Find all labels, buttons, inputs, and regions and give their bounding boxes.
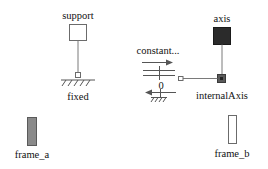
fixed-flange-icon[interactable] [76,73,81,78]
internal-axis-label: internalAxis [196,90,248,101]
diagram-canvas: support fixed axis internalAxis constant… [0,0,268,169]
constant-flange-icon[interactable] [179,77,184,81]
fixed-label: fixed [67,91,89,102]
frame-a-label: frame_a [15,149,50,160]
axis-flange-icon[interactable] [214,28,231,45]
constant-label: constant... [137,45,180,56]
support-flange-icon[interactable] [70,25,87,41]
ground-hatch-icon [62,80,90,86]
frame-a-component[interactable]: frame_a [15,118,50,161]
constant-component[interactable]: constant... 0 [137,45,183,102]
frame-b-component[interactable]: frame_b [215,116,250,160]
internal-axis-center-icon [220,77,223,80]
constant-ground-hatch-icon [151,98,167,103]
frame-b-label: frame_b [215,148,250,159]
axis-component[interactable]: axis [214,13,231,45]
support-label: support [62,10,94,21]
left-arrow-icon [145,90,152,96]
right-arrow-icon [166,60,173,66]
support-component[interactable]: support [62,10,94,41]
frame-a-connector-icon[interactable] [28,118,37,146]
fixed-component[interactable]: fixed [61,73,95,103]
axis-label: axis [214,13,231,24]
frame-b-connector-icon[interactable] [229,116,237,144]
